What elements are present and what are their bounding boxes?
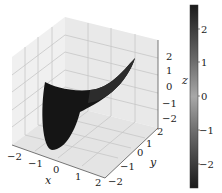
colorbar-tick: 0 (201, 91, 207, 102)
y-tick: −1 (120, 161, 135, 172)
y-tick: 1 (146, 138, 152, 149)
colorbar-gradient (190, 5, 198, 188)
x-axis-label: x (45, 174, 52, 187)
z-axis-ticks: −2 −1 0 1 2 z (162, 51, 188, 124)
y-axis-label: y (149, 156, 157, 169)
z-tick: 1 (166, 65, 172, 76)
z-tick: 0 (166, 81, 172, 92)
surface-plot: −2 −1 0 1 2 x −2 −1 0 1 2 y −2 −1 0 1 2 … (0, 0, 222, 193)
x-tick: −1 (28, 158, 43, 169)
colorbar-tick: 2 (201, 24, 207, 35)
z-axis-label: z (181, 74, 188, 87)
colorbar: 2 1 0 −1 −2 (190, 5, 214, 188)
z-tick: −1 (162, 98, 177, 109)
y-tick: 2 (157, 126, 163, 137)
colorbar-tick: −1 (199, 125, 214, 136)
x-tick: −2 (7, 151, 22, 162)
z-tick: −2 (162, 113, 177, 124)
colorbar-tick: 1 (201, 57, 207, 68)
x-tick: 2 (95, 177, 101, 188)
z-tick: 2 (166, 51, 172, 62)
y-tick: 0 (137, 147, 143, 158)
x-tick: 0 (53, 164, 59, 175)
x-tick: 1 (75, 171, 81, 182)
colorbar-tick: −2 (199, 159, 214, 170)
y-tick: −2 (108, 176, 123, 187)
